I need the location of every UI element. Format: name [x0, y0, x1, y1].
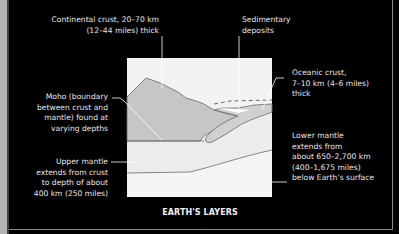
- label-line: to depth of about: [18, 178, 108, 189]
- label-line: varying depths: [20, 124, 108, 135]
- label-line: (12–44 miles) thick: [40, 26, 159, 37]
- label-line: Continental crust, 20–70 km: [40, 15, 159, 26]
- label-upper-mantle: Upper mantle extends from crust to depth…: [18, 157, 108, 199]
- label-sedimentary-deposits: Sedimentary deposits: [242, 15, 291, 36]
- label-line: thick: [292, 89, 369, 100]
- label-line: about 650–2,700 km: [292, 152, 374, 163]
- label-line: Lower mantle: [292, 131, 374, 142]
- label-continental-crust: Continental crust, 20–70 km (12–44 miles…: [40, 15, 159, 36]
- label-moho: Moho (boundary between crust and mantle)…: [20, 92, 108, 134]
- label-line: below Earth’s surface: [292, 173, 374, 184]
- label-line: deposits: [242, 26, 291, 37]
- label-lower-mantle: Lower mantle extends from about 650–2,70…: [292, 131, 374, 184]
- label-line: extends from crust: [18, 168, 108, 179]
- label-line: extends from: [292, 142, 374, 153]
- label-line: Oceanic crust,: [292, 68, 369, 79]
- label-line: (400–1,675 miles): [292, 163, 374, 174]
- label-line: between crust and: [20, 103, 108, 114]
- label-line: Moho (boundary: [20, 92, 108, 103]
- label-line: 400 km (250 miles): [18, 189, 108, 200]
- label-line: Sedimentary: [242, 15, 291, 26]
- label-oceanic-crust: Oceanic crust, 7–10 km (4–6 miles) thick: [292, 68, 369, 100]
- diagram-title: EARTH'S LAYERS: [140, 208, 260, 217]
- label-line: 7–10 km (4–6 miles): [292, 79, 369, 90]
- label-line: mantle) found at: [20, 113, 108, 124]
- label-line: Upper mantle: [18, 157, 108, 168]
